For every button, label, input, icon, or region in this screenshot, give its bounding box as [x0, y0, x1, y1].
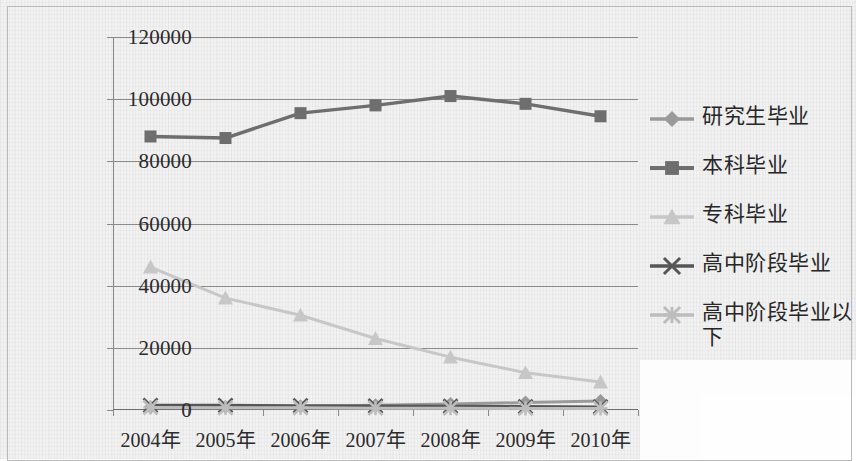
data-point-star	[444, 401, 458, 415]
data-point-triangle	[143, 260, 158, 274]
x-axis-tick	[413, 410, 414, 416]
x-axis-tick	[563, 410, 564, 416]
x-axis-tick	[263, 410, 264, 416]
legend-item-1[interactable]: 本科毕业	[648, 153, 853, 185]
x-axis-label: 2004年	[121, 424, 181, 453]
y-axis-label: 20000	[139, 335, 193, 360]
y-axis-label: 120000	[128, 25, 192, 50]
data-point-square	[445, 90, 457, 102]
data-point-diamond	[664, 111, 680, 127]
legend-label: 专科毕业	[696, 202, 788, 227]
legend-item-3[interactable]: 高中阶段毕业	[648, 251, 853, 283]
legend-marker-star-icon	[648, 300, 696, 330]
legend-marker-square-icon	[648, 153, 696, 183]
data-point-star	[664, 307, 680, 323]
legend-item-0[interactable]: 研究生毕业	[648, 104, 853, 136]
data-point-star	[144, 401, 158, 415]
legend-label: 本科毕业	[696, 153, 788, 178]
x-axis-tick	[488, 410, 489, 416]
legend-marker-diamond-icon	[648, 104, 696, 134]
x-axis-tick	[638, 410, 639, 416]
series-2	[143, 260, 608, 389]
legend-marker-cross-icon	[648, 251, 696, 281]
x-axis-label: 2006年	[271, 424, 331, 453]
x-axis-tick	[113, 410, 114, 416]
data-point-star	[294, 401, 308, 415]
x-axis-tick	[338, 410, 339, 416]
series-1	[145, 90, 607, 144]
legend-item-4[interactable]: 高中阶段毕业以下	[648, 300, 853, 332]
y-axis-label: 60000	[139, 211, 193, 236]
y-axis-label: 40000	[139, 273, 193, 298]
data-point-square	[665, 161, 679, 175]
data-point-star	[219, 401, 233, 415]
data-point-square	[220, 132, 232, 144]
chart-legend: 研究生毕业本科毕业专科毕业高中阶段毕业高中阶段毕业以下	[648, 104, 853, 349]
x-axis-label: 2008年	[421, 424, 481, 453]
y-axis-label: 80000	[139, 149, 193, 174]
data-point-square	[595, 110, 607, 122]
legend-label: 高中阶段毕业以下	[696, 300, 853, 350]
data-point-square	[145, 130, 157, 142]
x-axis-label: 2007年	[346, 424, 406, 453]
x-axis-label: 2009年	[496, 424, 556, 453]
y-axis-label: 100000	[128, 87, 192, 112]
legend-marker-triangle-icon	[648, 202, 696, 232]
x-axis-label: 2010年	[571, 424, 631, 453]
data-point-square	[295, 107, 307, 119]
data-point-star	[519, 401, 533, 415]
legend-label: 研究生毕业	[696, 104, 810, 129]
legend-item-2[interactable]: 专科毕业	[648, 202, 853, 234]
data-point-star	[594, 401, 608, 415]
legend-label: 高中阶段毕业	[696, 251, 831, 276]
x-axis-label: 2005年	[196, 424, 256, 453]
data-point-square	[370, 99, 382, 111]
data-point-square	[520, 98, 532, 110]
y-axis-label: 0	[181, 398, 192, 423]
data-point-star	[369, 401, 383, 415]
series-line	[151, 267, 601, 382]
